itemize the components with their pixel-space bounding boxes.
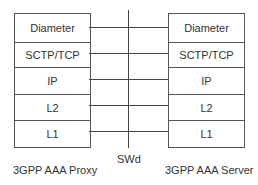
left-layer-l1: L1 — [15, 120, 90, 147]
right-layer-sctp-tcp: SCTP/TCP — [169, 42, 244, 67]
reference-point-label: SWd — [117, 153, 141, 165]
connector-ip — [89, 79, 168, 80]
connector-l1 — [89, 131, 168, 132]
connector-diameter — [89, 27, 168, 28]
right-layer-diameter: Diameter — [169, 14, 244, 42]
right-protocol-stack: Diameter SCTP/TCP IP L2 L1 — [168, 13, 245, 148]
connector-sctp-tcp — [89, 53, 168, 54]
connector-l2 — [89, 105, 168, 106]
left-layer-sctp-tcp: SCTP/TCP — [15, 42, 90, 67]
right-layer-l2: L2 — [169, 94, 244, 120]
left-layer-ip: IP — [15, 67, 90, 94]
right-layer-l1: L1 — [169, 120, 244, 147]
right-node-label: 3GPP AAA Server — [165, 164, 253, 176]
left-node-label: 3GPP AAA Proxy — [13, 164, 97, 176]
left-layer-l2: L2 — [15, 94, 90, 120]
left-layer-diameter: Diameter — [15, 14, 90, 42]
left-protocol-stack: Diameter SCTP/TCP IP L2 L1 — [14, 13, 91, 148]
right-layer-ip: IP — [169, 67, 244, 94]
